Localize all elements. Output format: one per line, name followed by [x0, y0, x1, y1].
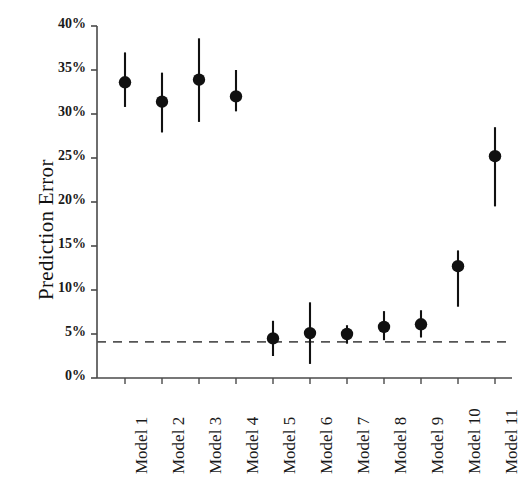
- y-axis-tick-label: 25%: [58, 148, 86, 164]
- data-point-marker: [341, 328, 353, 340]
- y-axis-tick-label: 0%: [65, 368, 86, 384]
- x-axis-tick-label: Model 8: [391, 417, 411, 474]
- x-axis-tick-label: Model 10: [465, 408, 485, 474]
- data-point-marker: [489, 150, 501, 162]
- x-axis-tick-label: Model 2: [169, 417, 189, 474]
- prediction-error-chart: Prediction Error 0%5%10%15%20%25%30%35%4…: [0, 0, 531, 490]
- data-point-marker: [415, 318, 427, 330]
- data-point-marker: [452, 260, 464, 272]
- y-axis-tick-label: 15%: [58, 236, 86, 252]
- x-axis-tick-label: Model 9: [428, 417, 448, 474]
- y-axis-tick-label: 40%: [58, 16, 86, 32]
- data-point-marker: [378, 321, 390, 333]
- x-axis-tick-label: Model 6: [317, 417, 337, 474]
- y-axis-tick-label: 35%: [58, 60, 86, 76]
- data-point-marker: [156, 95, 168, 107]
- data-point-marker: [193, 73, 205, 85]
- x-axis-tick-label: Model 4: [243, 417, 263, 474]
- y-axis-tick-label: 5%: [65, 324, 86, 340]
- y-axis-tick-label: 20%: [58, 192, 86, 208]
- data-point-marker: [119, 76, 131, 88]
- y-axis-tick-label: 10%: [58, 280, 86, 296]
- x-axis-tick-label: Model 7: [354, 417, 374, 474]
- y-axis-tick-label: 30%: [58, 104, 86, 120]
- data-point-marker: [304, 327, 316, 339]
- data-point-marker: [230, 90, 242, 102]
- x-axis-tick-label: Model 5: [280, 417, 300, 474]
- x-axis-tick-label: Model 3: [206, 417, 226, 474]
- x-axis-tick-label: Model 11: [502, 409, 522, 474]
- x-axis-tick-label: Model 1: [132, 417, 152, 474]
- data-point-marker: [267, 332, 279, 344]
